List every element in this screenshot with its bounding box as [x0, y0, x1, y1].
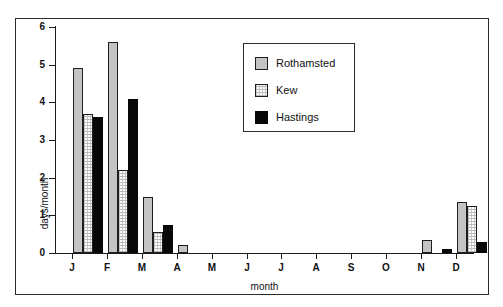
bar-rothamsted-n-10 — [422, 240, 432, 253]
bar-rothamsted-j-0 — [73, 68, 83, 253]
y-tick-label: 5 — [5, 60, 45, 70]
x-axis-line — [55, 253, 474, 254]
x-tick-label: J — [266, 262, 296, 274]
legend-label-hastings: Hastings — [276, 111, 319, 123]
x-tick — [386, 253, 387, 259]
x-tick-label: D — [441, 262, 471, 274]
legend-item-hastings: Hastings — [255, 109, 319, 125]
x-tick-label: S — [336, 262, 366, 274]
x-tick — [72, 253, 73, 259]
bar-hastings-m-2 — [163, 225, 173, 253]
legend-label-rothamsted: Rothamsted — [276, 57, 335, 69]
bar-rothamsted-a-3 — [178, 245, 188, 253]
y-tick-label: 1 — [5, 210, 45, 220]
y-tick-label: 0 — [5, 248, 45, 258]
bar-rothamsted-d-11 — [457, 202, 467, 253]
y-axis-tick-labels: 0123456 — [0, 0, 45, 307]
bar-hastings-n-10 — [442, 249, 452, 253]
x-tick — [212, 253, 213, 259]
legend-swatch-kew — [255, 84, 268, 97]
legend-swatch-rothamsted — [255, 57, 268, 70]
x-tick-label: A — [162, 262, 192, 274]
bar-hastings-j-0 — [93, 117, 103, 253]
x-tick-label: A — [301, 262, 331, 274]
x-tick-label: M — [197, 262, 227, 274]
bar-kew-d-11 — [467, 206, 477, 253]
bar-hastings-f-1 — [128, 99, 138, 253]
x-tick-label: O — [371, 262, 401, 274]
bar-rothamsted-m-2 — [143, 197, 153, 254]
bar-rothamsted-f-1 — [108, 42, 118, 253]
x-tick — [316, 253, 317, 259]
x-tick-label: F — [92, 262, 122, 274]
x-tick — [247, 253, 248, 259]
chart-legend: Rothamsted Kew Hastings — [243, 43, 355, 132]
x-tick — [142, 253, 143, 259]
y-tick-label: 4 — [5, 97, 45, 107]
legend-label-kew: Kew — [276, 84, 297, 96]
legend-item-rothamsted: Rothamsted — [255, 55, 335, 71]
x-tick-label: J — [57, 262, 87, 274]
bar-kew-f-1 — [118, 170, 128, 253]
x-tick-label: J — [232, 262, 262, 274]
legend-swatch-hastings — [255, 111, 268, 124]
legend-item-kew: Kew — [255, 82, 297, 98]
x-tick — [107, 253, 108, 259]
bar-kew-j-0 — [83, 114, 93, 253]
y-tick-label: 6 — [5, 22, 45, 32]
x-tick — [351, 253, 352, 259]
x-tick — [456, 253, 457, 259]
x-tick — [421, 253, 422, 259]
bar-hastings-d-11 — [477, 242, 487, 253]
chart-figure: days/month 0123456 JFMAMJJASOND month Ro… — [0, 0, 503, 307]
x-axis-title: month — [55, 281, 474, 292]
x-tick-label: M — [127, 262, 157, 274]
x-tick — [281, 253, 282, 259]
bar-kew-m-2 — [153, 232, 163, 253]
y-tick-label: 2 — [5, 173, 45, 183]
y-tick-label: 3 — [5, 135, 45, 145]
x-tick-label: N — [406, 262, 436, 274]
x-tick — [177, 253, 178, 259]
